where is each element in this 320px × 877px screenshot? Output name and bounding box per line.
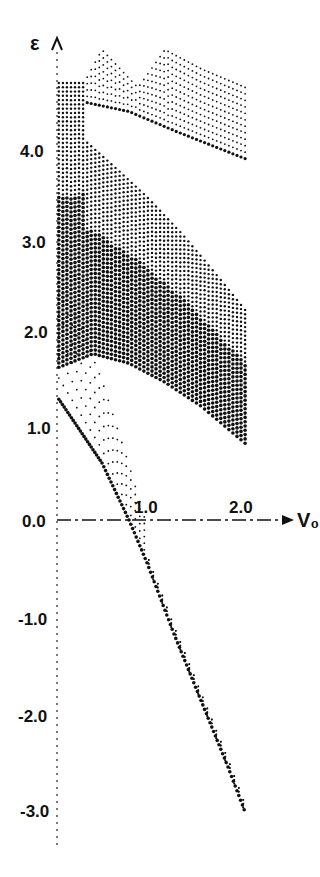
y-tick-label-neg1: -1.0: [18, 610, 47, 629]
energy-spectrum-chart: ε V₀ 1.0 2.0 4.0 3.0 2.0 1.0 0.0 -1.0 -2…: [0, 0, 320, 877]
x-axis-title: V₀: [297, 509, 319, 531]
y-axis-arrow-icon: [52, 38, 62, 50]
y-tick-label-2: 2.0: [24, 323, 48, 342]
y-axis-title: ε: [30, 32, 40, 54]
y-tick-label-4: 4.0: [20, 142, 44, 161]
x-tick-label-1: 1.0: [134, 498, 158, 517]
y-tick-label-neg2: -2.0: [18, 707, 47, 726]
x-tick-label-2: 2.0: [229, 498, 253, 517]
y-tick-label-neg3: -3.0: [20, 802, 49, 821]
x-axis-arrow-icon: [282, 515, 294, 525]
y-tick-label-3: 3.0: [22, 233, 46, 252]
data-dots: [57, 50, 247, 812]
y-tick-label-1: 1.0: [27, 419, 51, 438]
y-tick-label-0: 0.0: [22, 512, 46, 531]
